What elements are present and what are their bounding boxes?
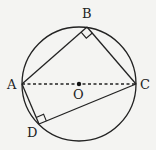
segment-cd [39,84,136,124]
geometry-diagram: B A C O D [0,0,156,150]
right-angle-marker-b [81,32,92,38]
segment-ab [22,27,87,84]
label-a: A [6,77,17,92]
center-point-o [77,82,81,86]
label-o: O [73,87,84,102]
label-d: D [27,125,37,140]
segment-da [22,84,39,124]
label-c: C [140,77,150,92]
label-b: B [82,6,92,21]
